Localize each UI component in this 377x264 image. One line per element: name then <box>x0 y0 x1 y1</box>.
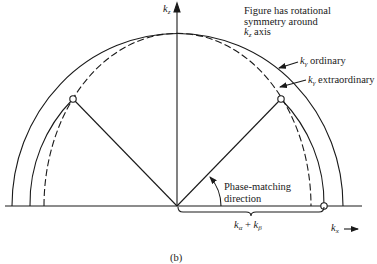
ordinary-text: ordinary <box>310 55 346 66</box>
kx-axis-label: kx <box>331 223 339 234</box>
kx-sub: x <box>336 227 339 235</box>
note-k: k <box>244 26 249 37</box>
kx-symbol: k <box>331 222 336 233</box>
kz-sub: z <box>168 8 171 16</box>
note-axis-word: axis <box>254 26 271 37</box>
extraordinary-text: extraordinary <box>318 74 375 85</box>
intersection-marker-left <box>70 96 76 102</box>
figure-caption: (b) <box>170 253 182 264</box>
sum-plus: + <box>245 219 251 230</box>
intersection-marker-right <box>278 96 284 102</box>
ordinary-pointer <box>279 62 298 68</box>
phase-matching-line-2: direction <box>224 193 291 205</box>
phase-matching-diagram <box>0 0 377 264</box>
sum-label: kα + kβ <box>234 220 262 231</box>
sum-s1: α <box>239 224 243 232</box>
kz-symbol: k <box>163 3 168 14</box>
phase-matching-line-1: Phase-matching <box>224 181 291 193</box>
note-line-1: Figure has rotational <box>244 6 331 17</box>
phase-matching-label: Phase-matching direction <box>224 181 291 205</box>
kz-axis-label: kz <box>163 4 170 15</box>
sum-k1: k <box>234 219 239 230</box>
phase-matching-angle-arc <box>210 177 221 206</box>
sum-s2: β <box>258 224 262 232</box>
extraordinary-pointer <box>280 80 306 87</box>
extraordinary-k: k <box>308 74 313 85</box>
radial-line-left <box>75 101 177 206</box>
kz-axis-arrowhead-icon <box>174 3 180 12</box>
sum-brace <box>178 207 324 216</box>
note-sub: z <box>249 31 252 39</box>
ordinary-label: kγ ordinary <box>300 56 346 67</box>
extraordinary-label: kγ extraordinary <box>308 75 375 86</box>
symmetry-note: Figure has rotational symmetry around kz… <box>244 6 331 39</box>
ordinary-k: k <box>300 55 305 66</box>
note-line-3: kz axis <box>244 27 331 39</box>
